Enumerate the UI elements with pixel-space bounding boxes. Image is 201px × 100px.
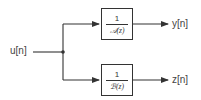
input-label: u[n] [10,46,27,56]
block-a-numerator: 1 [115,14,119,23]
block-b-denominator: ℬ(z) [110,82,124,91]
fraction-bar [106,24,128,25]
output-z-label: z[n] [172,75,188,85]
output-y-label: y[n] [172,19,188,29]
junction-dot [61,50,65,54]
block-a-denominator: 𝒜(z) [110,26,125,35]
fraction-bar [106,80,128,81]
block-b-numerator: 1 [115,70,119,79]
transfer-block-b: 1 ℬ(z) [101,64,133,96]
transfer-block-a: 1 𝒜(z) [101,8,133,40]
